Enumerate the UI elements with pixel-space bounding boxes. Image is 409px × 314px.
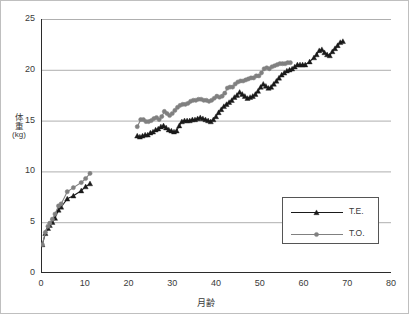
- x-axis-tick-label: 0: [26, 279, 56, 288]
- x-axis-tick-label: 10: [70, 279, 100, 288]
- data-point-marker: [48, 221, 52, 225]
- y-axis-tick-label: 10: [9, 166, 35, 175]
- data-point-marker: [88, 171, 92, 175]
- series-to: [41, 61, 292, 247]
- x-axis-tick-label: 70: [332, 279, 362, 288]
- legend-label: T.E.: [349, 206, 364, 216]
- data-point-marker: [41, 242, 44, 246]
- data-point-marker: [135, 125, 139, 129]
- data-point-marker: [43, 230, 47, 234]
- data-point-marker: [87, 181, 92, 186]
- y-axis-title-unit: (kg): [12, 131, 26, 139]
- data-point-marker: [288, 61, 292, 65]
- legend-item-te[interactable]: T.E.: [283, 201, 380, 224]
- legend-item-to[interactable]: T.O.: [283, 223, 380, 246]
- x-axis-tick-label: 30: [157, 279, 187, 288]
- data-point-marker: [71, 186, 75, 190]
- data-point-marker: [59, 202, 63, 206]
- data-point-marker: [79, 180, 83, 184]
- data-point-marker: [84, 176, 88, 180]
- legend-triangle-marker-icon: [313, 209, 320, 216]
- x-axis-tick-label: 40: [201, 279, 231, 288]
- data-point-marker: [53, 212, 57, 216]
- y-axis-tick-label: 0: [9, 268, 35, 277]
- series-line: [137, 41, 343, 137]
- x-axis-tick-label: 20: [114, 279, 144, 288]
- data-point-marker: [314, 210, 319, 215]
- data-point-marker: [71, 193, 76, 198]
- x-axis-tick-label: 80: [376, 279, 406, 288]
- x-axis-tick-label: 50: [245, 279, 275, 288]
- legend-label: T.O.: [349, 228, 365, 238]
- y-axis-tick-label: 15: [9, 116, 35, 125]
- data-point-marker: [223, 91, 227, 95]
- data-point-marker: [65, 190, 69, 194]
- y-axis-tick-label: 20: [9, 65, 35, 74]
- y-axis-tick-label: 25: [9, 14, 35, 23]
- data-point-marker: [160, 114, 164, 118]
- data-point-marker: [314, 232, 318, 236]
- y-axis-tick-label: 5: [9, 217, 35, 226]
- data-point-marker: [65, 196, 70, 201]
- legend-circle-marker-icon: [313, 231, 320, 238]
- chart-figure: 体 重 (kg) 月齢 T.E.T.O. 0510152025010203040…: [0, 0, 409, 314]
- x-axis-title: 月齢: [1, 296, 409, 309]
- data-point-marker: [259, 71, 263, 75]
- data-point-marker: [50, 217, 54, 221]
- chart-legend: T.E.T.O.: [282, 197, 379, 244]
- x-axis-tick-label: 60: [289, 279, 319, 288]
